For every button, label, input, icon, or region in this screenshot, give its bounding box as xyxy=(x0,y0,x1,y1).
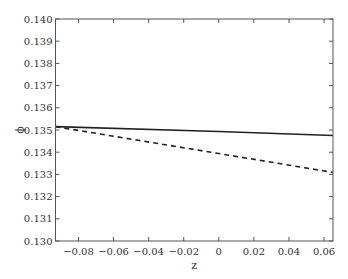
x-axis-label: z xyxy=(191,259,197,272)
y-axis-label: ϕ xyxy=(14,126,27,134)
x-tick-label: −0.06 xyxy=(98,246,129,257)
y-tick-label: 0.134 xyxy=(24,147,53,158)
x-tick-label: 0.04 xyxy=(278,246,300,257)
y-tick-label: 0.133 xyxy=(24,169,53,180)
line-chart: −0.08−0.06−0.04−0.0200.020.040.06 0.1300… xyxy=(0,0,348,279)
series-layer xyxy=(56,127,334,173)
plot-frame xyxy=(56,19,334,241)
y-tick-label: 0.136 xyxy=(24,102,53,113)
x-tick-label: −0.08 xyxy=(63,246,94,257)
series-line-solid xyxy=(56,127,334,136)
x-tick-label: −0.04 xyxy=(133,246,164,257)
y-tick-label: 0.138 xyxy=(24,58,53,69)
y-tick-label: 0.139 xyxy=(24,36,53,47)
x-tick-label: 0 xyxy=(216,246,222,257)
y-tick-label: 0.135 xyxy=(24,125,53,136)
y-tick-label: 0.140 xyxy=(24,14,53,25)
y-tick-label: 0.130 xyxy=(24,236,53,247)
x-axis: −0.08−0.06−0.04−0.0200.020.040.06 xyxy=(63,19,335,257)
y-tick-label: 0.137 xyxy=(24,80,53,91)
y-tick-label: 0.131 xyxy=(24,213,53,224)
y-tick-label: 0.132 xyxy=(24,191,53,202)
x-tick-label: 0.06 xyxy=(313,246,335,257)
x-tick-label: 0.02 xyxy=(243,246,265,257)
x-tick-label: −0.02 xyxy=(168,246,199,257)
